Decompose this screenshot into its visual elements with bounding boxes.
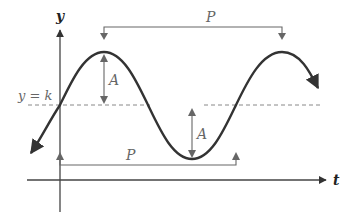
amplitude-label-bottom: A	[195, 126, 207, 142]
sinusoid-diagram: y t y = k P A	[0, 0, 354, 223]
amplitude-label-top: A	[107, 72, 119, 88]
amplitude-arrow-top	[100, 54, 108, 104]
period-label-bottom: P	[125, 147, 136, 163]
midline-label: y = k	[17, 88, 53, 103]
t-axis-label: t	[333, 172, 340, 188]
amplitude-arrow-bottom	[188, 108, 196, 158]
period-label-top: P	[205, 9, 216, 25]
period-bracket-bottom	[56, 152, 240, 165]
period-bracket-top	[100, 27, 286, 40]
y-axis-label: y	[55, 8, 65, 24]
